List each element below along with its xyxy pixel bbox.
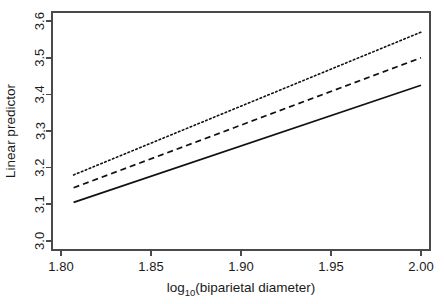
y-tick-label: 3.1 bbox=[33, 195, 48, 213]
x-tick-label: 1.85 bbox=[138, 259, 163, 274]
x-axis-title-base: log bbox=[167, 280, 185, 295]
y-axis-title: Linear predictor bbox=[3, 84, 18, 178]
x-tick-label: 2.00 bbox=[408, 259, 433, 274]
x-tick-label: 1.95 bbox=[318, 259, 343, 274]
x-tick-label: 1.90 bbox=[228, 259, 253, 274]
y-tick-label: 3.6 bbox=[33, 12, 48, 30]
linear-predictor-plot: 3.03.13.23.33.43.53.6 1.801.851.901.952.… bbox=[0, 0, 444, 304]
y-tick-label: 3.0 bbox=[33, 232, 48, 250]
x-tick-label: 1.80 bbox=[48, 259, 73, 274]
y-tick-label: 3.5 bbox=[33, 49, 48, 67]
x-axis-title-subscript: 10 bbox=[185, 287, 196, 298]
y-tick-label: 3.3 bbox=[33, 122, 48, 140]
y-tick-label: 3.2 bbox=[33, 159, 48, 177]
y-tick-label: 3.4 bbox=[33, 85, 48, 103]
chart-figure: 3.03.13.23.33.43.53.6 1.801.851.901.952.… bbox=[0, 0, 444, 304]
x-axis-title-rest: (biparietal diameter) bbox=[195, 280, 315, 295]
